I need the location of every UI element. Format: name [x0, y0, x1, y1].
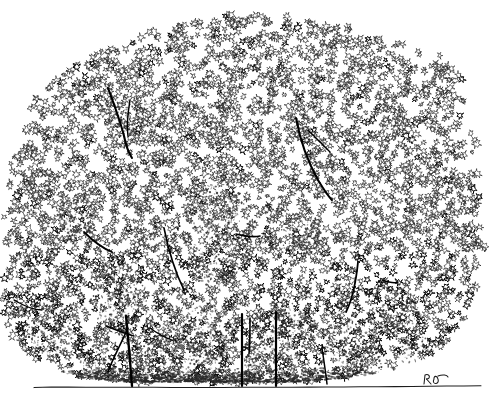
base-shadow-stipple — [119, 371, 123, 373]
shade-stipple — [110, 120, 112, 122]
shade-stipple — [170, 327, 172, 329]
shade-stipple — [359, 371, 360, 372]
base-shadow-stipple — [234, 369, 236, 371]
shade-stipple — [142, 128, 144, 130]
base-shadow-stipple — [187, 370, 190, 372]
base-shadow-stipple — [380, 369, 382, 370]
shade-stipple — [263, 371, 265, 373]
shade-stipple — [244, 364, 246, 366]
base-shadow-stipple — [87, 375, 91, 376]
shade-stipple — [360, 360, 362, 362]
shade-stipple — [293, 334, 294, 335]
shade-stipple — [90, 298, 92, 300]
base-shadow-stipple — [68, 371, 71, 373]
shade-stipple — [393, 333, 395, 335]
base-shadow-stipple — [194, 376, 198, 378]
base-shadow-stipple — [147, 372, 149, 373]
shade-stipple — [410, 302, 412, 304]
shade-stipple — [227, 272, 228, 273]
shade-stipple — [404, 308, 405, 309]
base-shadow-stipple — [273, 381, 274, 382]
shade-stipple — [287, 368, 289, 370]
shade-stipple — [133, 322, 134, 323]
base-shadow-stipple — [253, 373, 255, 375]
shade-stipple — [176, 309, 177, 310]
shade-stipple — [135, 101, 137, 103]
base-shadow-stipple — [327, 378, 332, 380]
shade-stipple — [290, 359, 292, 361]
shade-stipple — [169, 347, 170, 348]
shade-stipple — [59, 335, 61, 337]
shade-stipple — [88, 230, 90, 232]
shade-stipple — [212, 306, 214, 308]
shade-stipple — [95, 367, 96, 368]
shade-stipple — [169, 342, 171, 344]
base-shadow-stipple — [79, 370, 81, 371]
shade-stipple — [182, 315, 184, 317]
shade-stipple — [166, 330, 167, 331]
shade-stipple — [239, 194, 241, 196]
shade-stipple — [146, 104, 147, 105]
shade-stipple — [402, 346, 404, 348]
shade-stipple — [306, 349, 307, 350]
shade-stipple — [147, 349, 149, 351]
shade-stipple — [352, 355, 354, 357]
shade-stipple — [220, 313, 222, 315]
shade-stipple — [220, 354, 221, 355]
shade-stipple — [333, 331, 335, 333]
base-shadow-stipple — [260, 381, 263, 382]
shade-stipple — [59, 323, 61, 325]
shade-stipple — [189, 264, 190, 265]
shade-stipple — [220, 208, 222, 210]
shade-stipple — [401, 313, 402, 314]
shade-stipple — [52, 307, 54, 309]
shade-stipple — [209, 358, 210, 359]
shade-stipple — [308, 318, 310, 320]
shade-stipple — [299, 248, 301, 250]
shade-stipple — [36, 330, 38, 332]
shade-stipple — [326, 346, 327, 347]
base-shadow-stipple — [192, 381, 194, 383]
shade-stipple — [145, 351, 146, 352]
shade-stipple — [204, 344, 205, 345]
shade-stipple — [178, 354, 180, 356]
shade-stipple — [177, 324, 179, 326]
base-shadow-stipple — [68, 372, 73, 373]
shade-stipple — [235, 200, 236, 201]
shade-stipple — [278, 371, 280, 373]
base-shadow-stipple — [197, 375, 201, 376]
shade-stipple — [60, 329, 62, 331]
base-shadow-stipple — [93, 369, 96, 370]
shade-stipple — [205, 199, 207, 201]
shade-stipple — [231, 216, 233, 218]
shade-stipple — [328, 337, 330, 339]
shade-stipple — [412, 323, 414, 325]
shade-stipple — [190, 319, 192, 321]
shade-stipple — [224, 232, 226, 234]
shade-stipple — [51, 335, 52, 336]
shade-stipple — [359, 332, 360, 333]
shade-stipple — [224, 201, 225, 202]
shade-stipple — [397, 329, 399, 331]
shade-stipple — [64, 333, 65, 334]
base-shadow-stipple — [137, 371, 141, 372]
shade-stipple — [306, 232, 308, 234]
shade-stipple — [223, 184, 224, 185]
shade-stipple — [121, 297, 123, 299]
shade-stipple — [65, 327, 66, 328]
shade-stipple — [31, 326, 33, 328]
shade-stipple — [270, 331, 272, 333]
shade-stipple — [152, 349, 153, 350]
shade-stipple — [389, 299, 391, 301]
shade-stipple — [140, 107, 141, 108]
shade-stipple — [294, 314, 296, 316]
shade-stipple — [198, 216, 200, 218]
shade-stipple — [209, 340, 210, 341]
base-shadow-stipple — [332, 372, 336, 374]
shade-stipple — [181, 338, 183, 340]
base-shadow-stipple — [326, 371, 329, 372]
base-shadow-stipple — [310, 376, 314, 378]
shade-stipple — [180, 311, 182, 313]
base-shadow-stipple — [76, 376, 81, 377]
shade-stipple — [214, 257, 215, 258]
